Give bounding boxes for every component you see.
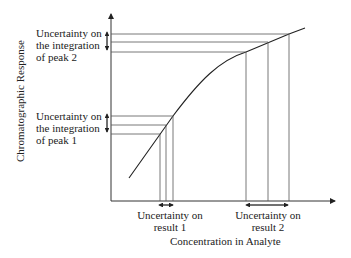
peak2-lines bbox=[111, 34, 289, 201]
peak2-label-line1: Uncertainty on bbox=[36, 27, 102, 39]
result2-label: Uncertainty on result 2 bbox=[228, 209, 308, 233]
y-axis-label: Chromatographic Response bbox=[14, 42, 26, 162]
result1-label: Uncertainty on result 1 bbox=[130, 209, 210, 233]
result1-label-line1: Uncertainty on bbox=[130, 209, 210, 221]
result2-label-line1: Uncertainty on bbox=[228, 209, 308, 221]
peak1-label-line2: the integration bbox=[36, 122, 102, 134]
peak1-label-line1: Uncertainty on bbox=[36, 110, 102, 122]
peak2-label: Uncertainty on the integration of peak 2 bbox=[36, 27, 102, 63]
calibration-curve bbox=[129, 28, 305, 178]
peak1-label: Uncertainty on the integration of peak 1 bbox=[36, 110, 102, 146]
peak1-label-line3: of peak 1 bbox=[36, 134, 102, 146]
result2-label-line2: result 2 bbox=[228, 221, 308, 233]
peak2-label-line3: of peak 2 bbox=[36, 51, 102, 63]
x-axis-label: Concentration in Analyte bbox=[170, 235, 281, 247]
peak2-label-line2: the integration bbox=[36, 39, 102, 51]
result1-label-line2: result 1 bbox=[130, 221, 210, 233]
